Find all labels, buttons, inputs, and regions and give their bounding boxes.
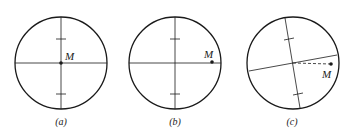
panel-caption: (a) (55, 116, 67, 128)
dashed-offset-line (293, 63, 331, 64)
panel-b: M (b) (129, 17, 221, 128)
diagram-canvas: M (a) M (b) M (c) (0, 0, 348, 137)
panel-a: M (a) (15, 17, 107, 128)
point-m-dot (329, 62, 333, 66)
point-m-dot (210, 60, 214, 64)
panel-c: M (c) (247, 17, 339, 128)
point-m-dot (59, 61, 63, 65)
panel-caption: (b) (169, 116, 181, 128)
point-m-label: M (64, 50, 75, 62)
point-m-label: M (203, 48, 214, 60)
panel-caption: (c) (286, 116, 298, 128)
point-m-label: M (321, 68, 332, 80)
